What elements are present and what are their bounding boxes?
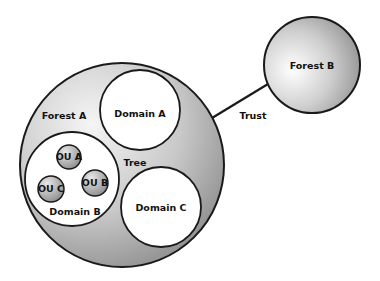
domain-a-label: Domain A (114, 108, 166, 119)
ad-structure-diagram: Forest B Forest A Domain A Domain B OU A… (0, 0, 380, 281)
ou-b: OU B (82, 170, 108, 196)
forest-b-label: Forest B (290, 60, 335, 71)
ou-a-label: OU A (56, 151, 83, 162)
domain-b-label: Domain B (49, 206, 100, 217)
forest-b: Forest B (264, 17, 360, 113)
ou-c-label: OU C (38, 183, 64, 194)
domain-a: Domain A (100, 70, 180, 150)
domain-c-label: Domain C (135, 202, 186, 213)
ou-b-label: OU B (82, 177, 108, 188)
tree-label: Tree (123, 157, 146, 168)
ou-c: OU C (38, 176, 64, 202)
domain-c: Domain C (121, 167, 201, 247)
trust-label: Trust (239, 110, 267, 121)
forest-a-label: Forest A (42, 110, 87, 121)
